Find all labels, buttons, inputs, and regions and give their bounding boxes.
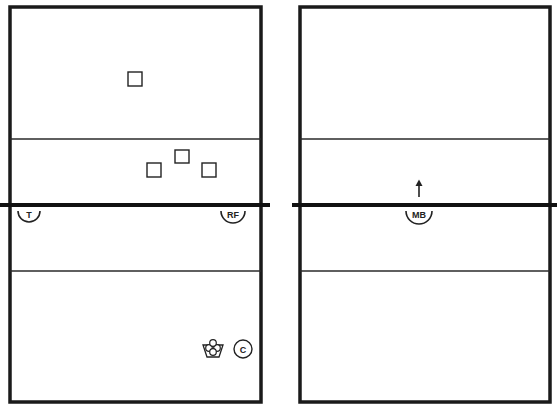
ball-cart-icon bbox=[203, 340, 223, 357]
coach-label: C bbox=[240, 345, 247, 355]
right-court: MB bbox=[292, 7, 557, 402]
movement-arrow-icon bbox=[416, 180, 423, 198]
player-t: T bbox=[18, 210, 40, 222]
player-label: MB bbox=[412, 210, 426, 220]
player-label: RF bbox=[227, 210, 239, 220]
target-square bbox=[175, 150, 189, 163]
volleyball-diagram: T RF C bbox=[0, 0, 557, 414]
player-mb: MB bbox=[406, 210, 432, 224]
target-square bbox=[128, 72, 142, 86]
left-court: T RF C bbox=[0, 7, 270, 402]
player-label: T bbox=[26, 210, 32, 220]
player-rf: RF bbox=[221, 210, 245, 223]
coach-marker: C bbox=[234, 340, 252, 358]
target-square bbox=[147, 163, 161, 177]
target-square bbox=[202, 163, 216, 177]
